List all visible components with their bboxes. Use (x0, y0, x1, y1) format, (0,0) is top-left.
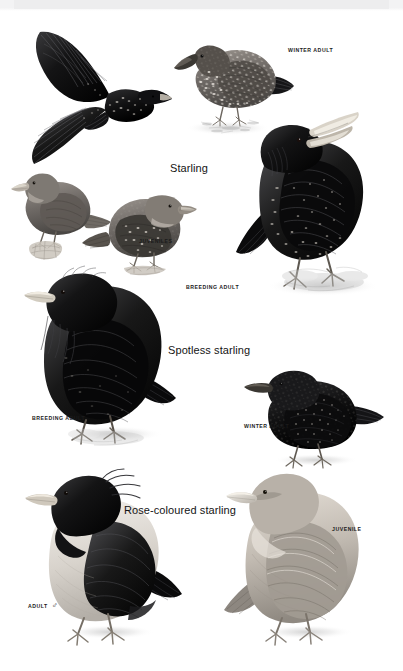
figure-starling-breeding-adult (228, 96, 398, 311)
label-rose-juvenile: JUVENILE (332, 527, 362, 532)
starling-flight-body (32, 32, 172, 164)
figure-spotless-starling-breeding-adult (24, 258, 184, 453)
label-rose-adult: ADULT♂ (28, 602, 58, 610)
species-heading-spotless-starling: Spotless starling (168, 345, 250, 356)
label-rose-adult-text: ADULT (28, 603, 48, 609)
male-symbol-icon: ♂ (52, 601, 58, 610)
label-starling-juveniles: JUVENILES (139, 239, 173, 244)
label-starling-breeding-adult: BREEDING ADULT (186, 285, 239, 290)
figure-rose-coloured-starling-juvenile (212, 450, 387, 650)
page-top-band (14, 0, 389, 9)
figure-rose-coloured-starling-adult-male (22, 460, 187, 650)
figure-starling-in-flight (22, 26, 172, 171)
label-spotless-winter-adult: WINTER ADULT (244, 424, 289, 429)
rose-adult-body (25, 469, 182, 645)
species-heading-rose-coloured-starling: Rose-coloured starling (124, 505, 236, 516)
label-starling-winter-adult: WINTER ADULT (288, 48, 333, 53)
illustration-plate: WINTER ADULT (0, 0, 403, 671)
starling-breeding-body (236, 112, 368, 291)
species-heading-starling: Starling (170, 163, 208, 174)
label-spotless-breeding-adult: BREEDING ADULT (32, 416, 85, 421)
rose-juvenile-body (224, 474, 359, 645)
